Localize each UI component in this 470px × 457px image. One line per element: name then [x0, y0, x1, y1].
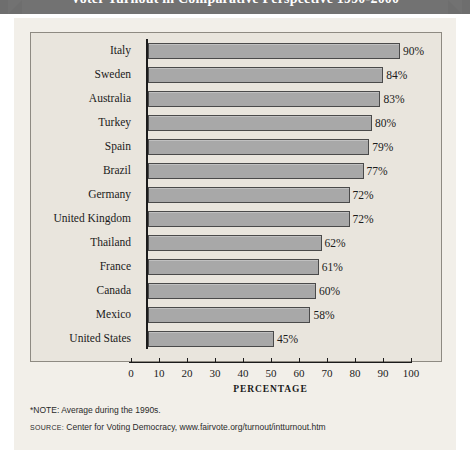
bar-value-label: 72% — [353, 212, 374, 226]
category-label: Brazil — [31, 165, 131, 177]
bar — [148, 139, 369, 155]
x-axis-ticks: 0102030405060708090100 — [129, 362, 412, 384]
x-tick-label: 40 — [238, 367, 249, 379]
source-tag: SOURCE: — [30, 424, 64, 431]
category-label: Italy — [31, 45, 131, 57]
category-label: United Kingdom — [31, 213, 131, 225]
x-tick-mark — [159, 358, 160, 363]
bar-value-label: 58% — [313, 308, 334, 322]
x-axis-title: PERCENTAGE — [129, 384, 412, 394]
x-tick-label: 90 — [378, 367, 389, 379]
x-tick-mark — [355, 358, 356, 363]
bar — [148, 43, 400, 59]
bar-row: 62% — [148, 235, 428, 251]
x-tick-label: 50 — [266, 367, 277, 379]
x-tick-mark — [327, 358, 328, 363]
category-label: United States — [31, 333, 131, 345]
bar — [148, 259, 319, 275]
chart-title: Voter Turnout in Comparative Perspective… — [0, 0, 470, 7]
bar-value-label: 80% — [375, 116, 396, 130]
bar — [148, 307, 310, 323]
x-tick-mark — [243, 358, 244, 363]
x-tick-mark — [131, 358, 132, 363]
x-tick-mark — [411, 358, 412, 363]
x-tick-label: 20 — [182, 367, 193, 379]
figure-panel: ItalySwedenAustraliaTurkeySpainBrazilGer… — [14, 18, 456, 450]
source-line: SOURCE: Center for Voting Democracy, www… — [30, 423, 440, 432]
x-tick-label: 70 — [322, 367, 333, 379]
category-label: Mexico — [31, 309, 131, 321]
bar-row: 90% — [148, 43, 428, 59]
x-tick-label: 10 — [154, 367, 165, 379]
bar — [148, 91, 380, 107]
x-tick-label: 80 — [350, 367, 361, 379]
bar — [148, 115, 372, 131]
x-tick-mark — [215, 358, 216, 363]
bar — [148, 283, 316, 299]
bar-row: 77% — [148, 163, 428, 179]
bar-value-label: 79% — [372, 140, 393, 154]
note-line: *NOTE: Average during the 1990s. — [30, 406, 440, 415]
bar — [148, 67, 383, 83]
bar — [148, 187, 350, 203]
x-tick-mark — [187, 358, 188, 363]
title-banner: Voter Turnout in Comparative Perspective… — [0, 0, 470, 14]
footnotes: *NOTE: Average during the 1990s. SOURCE:… — [30, 406, 440, 441]
bar-value-label: 45% — [277, 332, 298, 346]
category-label: Australia — [31, 93, 131, 105]
bar-value-label: 90% — [403, 44, 424, 58]
x-tick-mark — [271, 358, 272, 363]
category-label: Germany — [31, 189, 131, 201]
bar-row: 79% — [148, 139, 428, 155]
bar-value-label: 77% — [367, 164, 388, 178]
bar-row: 80% — [148, 115, 428, 131]
category-label: Turkey — [31, 117, 131, 129]
x-tick-label: 0 — [128, 367, 134, 379]
bar — [148, 211, 350, 227]
category-axis-labels: ItalySwedenAustraliaTurkeySpainBrazilGer… — [31, 39, 131, 351]
bar-row: 61% — [148, 259, 428, 275]
bar — [148, 163, 364, 179]
bar-value-label: 72% — [353, 188, 374, 202]
bar-row: 60% — [148, 283, 428, 299]
bar-row: 72% — [148, 187, 428, 203]
bar-value-label: 83% — [383, 92, 404, 106]
bar — [148, 235, 322, 251]
x-tick-label: 100 — [403, 367, 420, 379]
bar-row: 45% — [148, 331, 428, 347]
bar-row: 84% — [148, 67, 428, 83]
x-tick-label: 60 — [294, 367, 305, 379]
x-tick-mark — [299, 358, 300, 363]
bar-value-label: 62% — [325, 236, 346, 250]
category-label: Canada — [31, 285, 131, 297]
bar-row: 83% — [148, 91, 428, 107]
x-tick-mark — [383, 358, 384, 363]
category-label: France — [31, 261, 131, 273]
bar-row: 72% — [148, 211, 428, 227]
category-label: Sweden — [31, 69, 131, 81]
plot-area: ItalySwedenAustraliaTurkeySpainBrazilGer… — [30, 32, 442, 362]
bar-value-label: 84% — [386, 68, 407, 82]
source-text: Center for Voting Democracy, www.fairvot… — [64, 422, 326, 432]
category-label: Spain — [31, 141, 131, 153]
x-tick-label: 30 — [210, 367, 221, 379]
bar-row: 58% — [148, 307, 428, 323]
bar-value-label: 61% — [322, 260, 343, 274]
category-label: Thailand — [31, 237, 131, 249]
bar — [148, 331, 274, 347]
bar-value-label: 60% — [319, 284, 340, 298]
bars-container: 90%84%83%80%79%77%72%72%62%61%60%58%45% — [148, 39, 428, 351]
